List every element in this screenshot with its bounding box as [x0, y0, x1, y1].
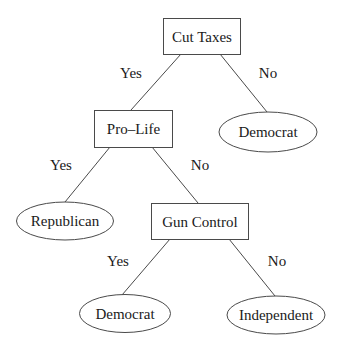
node-label: Cut Taxes	[172, 29, 232, 45]
edge-label-cut-taxes-yes: Yes	[120, 65, 142, 81]
node-democrat-2: Democrat	[80, 295, 171, 333]
node-democrat-1: Democrat	[219, 112, 317, 152]
edge-label-gun-control-no: No	[268, 253, 286, 269]
node-label: Democrat	[238, 124, 298, 140]
edge-label-gun-control-yes: Yes	[107, 253, 129, 269]
node-label: Gun Control	[162, 214, 237, 230]
edges	[65, 54, 275, 296]
edge-label-pro-life-no: No	[191, 157, 209, 173]
edge-pro-life-yes	[65, 147, 110, 202]
node-independent: Independent	[227, 296, 325, 334]
node-label: Republican	[31, 213, 100, 229]
node-label: Independent	[239, 307, 314, 323]
edge-cut-taxes-yes	[131, 54, 181, 110]
decision-tree-diagram: Yes No Yes No Yes No Cut Taxes Pro–Life …	[0, 0, 339, 350]
node-label: Democrat	[95, 306, 155, 322]
node-pro-life: Pro–Life	[95, 111, 173, 148]
edge-gun-control-yes	[122, 239, 170, 295]
edge-label-pro-life-yes: Yes	[50, 157, 72, 173]
edge-pro-life-no	[152, 147, 198, 203]
node-cut-taxes: Cut Taxes	[164, 19, 241, 55]
edge-label-cut-taxes-no: No	[259, 65, 277, 81]
node-republican: Republican	[17, 202, 114, 240]
edge-cut-taxes-no	[220, 54, 267, 112]
node-gun-control: Gun Control	[152, 204, 249, 240]
node-label: Pro–Life	[107, 121, 161, 137]
